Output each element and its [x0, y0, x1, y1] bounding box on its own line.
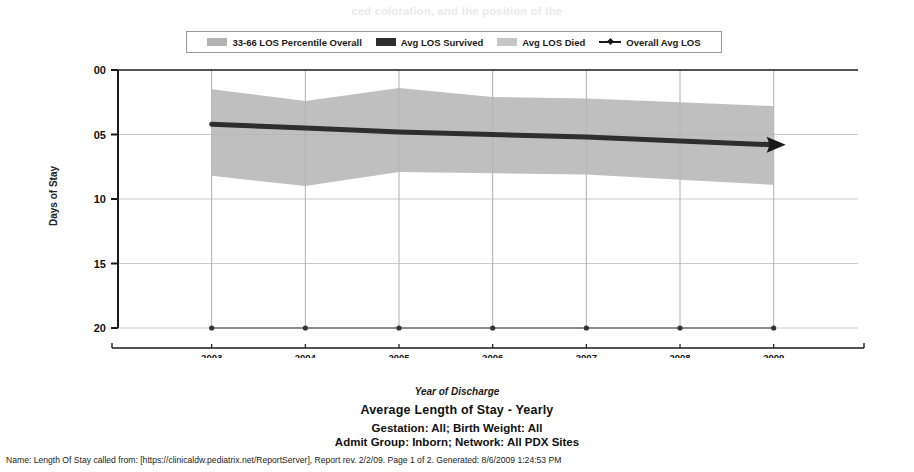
chart-svg: 2015100500 2003200420052006200720082009	[0, 58, 914, 358]
svg-text:20: 20	[94, 322, 106, 334]
svg-text:2003: 2003	[201, 352, 222, 358]
svg-text:2009: 2009	[763, 352, 784, 358]
solid-swatch-icon-died	[497, 38, 517, 46]
chart-legend: 33-66 LOS Percentile Overall Avg LOS Sur…	[186, 31, 722, 53]
y-axis-title: Days of Stay	[48, 166, 59, 226]
report-footer: Name: Length Of Stay called from: [https…	[6, 455, 906, 465]
svg-text:2007: 2007	[576, 352, 597, 358]
legend-label-overall-avg-los: Overall Avg LOS	[626, 37, 700, 48]
line-marker-icon	[599, 38, 621, 46]
svg-text:05: 05	[94, 129, 106, 141]
svg-text:15: 15	[94, 258, 106, 270]
legend-item-avg-los-died: Avg LOS Died	[497, 37, 585, 48]
legend-label-avg-los-died: Avg LOS Died	[522, 37, 585, 48]
legend-item-avg-los-survived: Avg LOS Survived	[376, 37, 484, 48]
svg-text:10: 10	[94, 193, 106, 205]
y-axis-ticks: 2015100500	[94, 64, 118, 334]
chart-subtitle-admit-group: Admit Group: Inborn; Network: All PDX Si…	[0, 436, 914, 448]
ghost-header-text: ced coloration, and the position of the	[0, 0, 914, 22]
chart-title: Average Length of Stay - Yearly	[0, 403, 914, 417]
chart-plot-area: Days of Stay 2015100500 2003200420052006…	[0, 58, 914, 358]
svg-text:00: 00	[94, 64, 106, 76]
legend-label-avg-los-survived: Avg LOS Survived	[401, 37, 484, 48]
legend-item-percentile-band: 33-66 LOS Percentile Overall	[207, 37, 361, 48]
x-axis-title: Year of Discharge	[0, 386, 914, 397]
svg-text:2006: 2006	[482, 352, 503, 358]
x-axis: 2003200420052006200720082009	[112, 343, 864, 358]
solid-swatch-icon	[376, 38, 396, 46]
legend-label-percentile-band: 33-66 LOS Percentile Overall	[232, 37, 361, 48]
legend-item-overall-avg-los: Overall Avg LOS	[599, 37, 700, 48]
svg-text:2004: 2004	[295, 352, 317, 358]
percentile-band	[212, 88, 774, 186]
band-swatch-icon	[207, 38, 227, 46]
svg-text:2005: 2005	[388, 352, 410, 358]
chart-subtitle-gestation: Gestation: All; Birth Weight: All	[0, 422, 914, 434]
svg-text:2008: 2008	[669, 352, 690, 358]
